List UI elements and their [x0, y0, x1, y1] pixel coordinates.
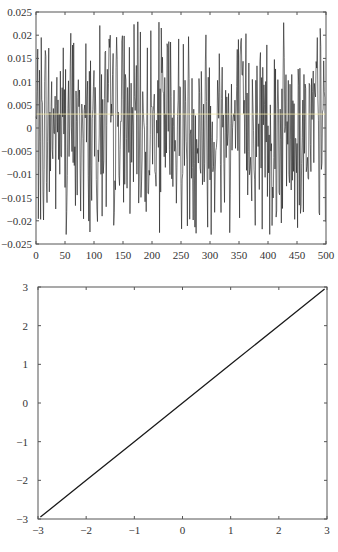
x-tick-label: 2 — [276, 524, 282, 536]
y-tick-label: −0.01 — [7, 168, 32, 180]
bottom-x-axis: −3−2−10123 — [32, 287, 330, 536]
x-tick-label: −1 — [128, 524, 140, 536]
noise-series-line — [36, 22, 325, 235]
y-tick-label: 0 — [23, 397, 29, 409]
y-tick-label: −2 — [16, 474, 28, 486]
bottom-y-axis: 3210−1−2−3 — [16, 281, 327, 525]
y-tick-label: −1 — [16, 436, 28, 448]
y-tick-label: 0.015 — [7, 52, 32, 64]
y-tick-label: −0.025 — [1, 238, 32, 250]
y-tick-label: 0.01 — [13, 76, 32, 88]
y-tick-label: −0.005 — [1, 145, 32, 157]
x-tick-label: 1 — [228, 524, 234, 536]
x-tick-label: 0 — [33, 249, 39, 261]
x-tick-label: 3 — [324, 524, 330, 536]
qq-line — [40, 289, 324, 517]
x-tick-label: 400 — [260, 249, 277, 261]
y-tick-label: −0.015 — [1, 192, 32, 204]
x-tick-label: 0 — [180, 524, 186, 536]
x-tick-label: 350 — [231, 249, 248, 261]
x-tick-label: 150 — [115, 249, 132, 261]
x-tick-label: 200 — [144, 249, 161, 261]
x-tick-label: 500 — [318, 249, 335, 261]
noise-line — [36, 22, 325, 235]
y-tick-label: 0.005 — [7, 99, 32, 111]
x-tick-label: 100 — [86, 249, 103, 261]
qq-plot: −3−2−10123 3210−1−2−3 — [16, 281, 330, 536]
y-tick-label: 0.02 — [13, 29, 32, 41]
y-tick-label: −0.02 — [7, 215, 32, 227]
y-tick-label: −3 — [16, 513, 28, 525]
x-tick-label: 250 — [173, 249, 190, 261]
x-tick-label: 50 — [60, 249, 72, 261]
y-tick-label: 0.025 — [7, 6, 32, 18]
x-tick-label: −2 — [80, 524, 92, 536]
y-tick-label: 2 — [23, 320, 29, 332]
x-tick-label: 300 — [202, 249, 219, 261]
x-tick-label: −3 — [32, 524, 44, 536]
y-tick-label: 0 — [27, 122, 33, 134]
y-tick-label: 1 — [23, 358, 29, 370]
y-tick-label: 3 — [23, 281, 29, 293]
figure: 050100150200250300350400450500 0.0250.02… — [0, 0, 338, 552]
time-series-plot: 050100150200250300350400450500 0.0250.02… — [1, 6, 335, 261]
x-tick-label: 450 — [289, 249, 306, 261]
